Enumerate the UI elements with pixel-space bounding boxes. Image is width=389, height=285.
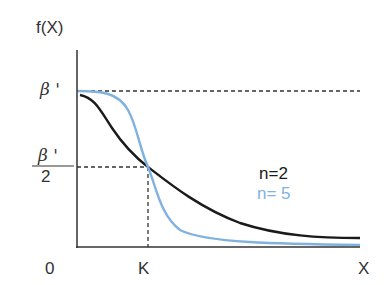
legend-n5: n= 5 — [257, 184, 291, 204]
curve-n5 — [77, 91, 360, 245]
y-axis-label: f(X) — [36, 18, 63, 38]
half-beta-denominator: 2 — [41, 167, 50, 187]
origin-label: 0 — [45, 259, 54, 279]
legend-n2: n=2 — [259, 164, 288, 184]
beta-label: β ' — [40, 79, 60, 99]
half-beta-numerator: β ' — [38, 145, 58, 165]
k-tick-label: K — [138, 259, 149, 279]
x-axis-label: X — [358, 259, 369, 279]
hill-function-plot — [0, 0, 389, 285]
